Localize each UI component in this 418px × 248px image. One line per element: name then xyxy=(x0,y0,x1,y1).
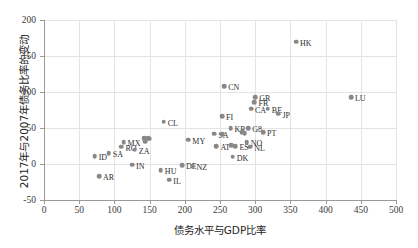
data-point xyxy=(228,126,233,131)
data-point-label: CL xyxy=(168,118,178,127)
gridline-horizontal xyxy=(44,164,396,165)
x-tick-mark xyxy=(290,200,291,204)
data-point-label: IL xyxy=(173,176,181,185)
data-point xyxy=(130,162,135,167)
y-axis-line xyxy=(44,20,45,200)
data-point xyxy=(229,143,234,148)
y-tick-mark xyxy=(40,164,44,165)
data-point-label: ZA xyxy=(139,146,150,155)
data-point xyxy=(97,174,102,179)
gridline-vertical xyxy=(150,20,151,200)
data-point-label: HU xyxy=(165,167,177,176)
x-tick-mark xyxy=(79,200,80,204)
data-point xyxy=(186,137,191,142)
data-point xyxy=(253,95,258,100)
x-tick-mark xyxy=(326,200,327,204)
data-point-label: NZ xyxy=(197,163,208,172)
x-tick-mark xyxy=(361,200,362,204)
data-point-label: ID xyxy=(99,153,107,162)
data-point xyxy=(161,119,166,124)
y-tick-mark xyxy=(40,200,44,201)
data-point xyxy=(106,151,111,156)
y-tick-mark xyxy=(40,128,44,129)
gridline-vertical xyxy=(114,20,115,200)
data-point xyxy=(249,106,254,111)
data-point-label: DK xyxy=(237,153,249,162)
gridline-vertical xyxy=(220,20,221,200)
x-tick-label: 200 xyxy=(178,205,192,215)
data-point xyxy=(159,168,164,173)
data-point xyxy=(133,147,138,152)
x-tick-label: 150 xyxy=(142,205,156,215)
x-tick-label: 300 xyxy=(248,205,262,215)
data-point-label: FI xyxy=(226,113,233,122)
data-point-label: AR xyxy=(103,173,114,182)
data-point-label: SA xyxy=(113,150,123,159)
gridline-vertical xyxy=(290,20,291,200)
data-point xyxy=(233,144,238,149)
data-point xyxy=(167,178,172,183)
data-point xyxy=(242,131,247,136)
gridline-horizontal xyxy=(44,128,396,129)
data-point-label: ES xyxy=(239,143,248,152)
x-tick-label: 500 xyxy=(389,205,403,215)
y-axis-title: 2017年与2007年债务比率的变动 xyxy=(16,27,31,197)
gridline-horizontal xyxy=(44,20,396,21)
x-tick-label: 450 xyxy=(354,205,368,215)
gridline-vertical xyxy=(79,20,80,200)
data-point xyxy=(142,136,147,141)
x-tick-label: 400 xyxy=(318,205,332,215)
y-tick-mark xyxy=(40,56,44,57)
data-point xyxy=(230,155,235,160)
data-point-label: PT xyxy=(267,129,276,138)
scatter-chart: -50050100150200 050100150200250300350400… xyxy=(0,0,418,248)
x-tick-label: 100 xyxy=(107,205,121,215)
data-point-label: IN xyxy=(136,161,144,170)
data-point xyxy=(214,144,219,149)
plot-area xyxy=(44,20,396,200)
data-point xyxy=(119,144,124,149)
x-tick-mark xyxy=(396,200,397,204)
gridline-vertical xyxy=(361,20,362,200)
gridline-horizontal xyxy=(44,56,396,57)
gridline-vertical xyxy=(326,20,327,200)
x-tick-label: 350 xyxy=(283,205,297,215)
data-point xyxy=(92,154,97,159)
data-point xyxy=(147,137,152,142)
data-point xyxy=(222,84,227,89)
y-tick-mark xyxy=(40,92,44,93)
data-point-label: CN xyxy=(228,83,239,92)
x-tick-mark xyxy=(150,200,151,204)
data-point-label: CA xyxy=(255,105,266,114)
x-tick-label: 0 xyxy=(42,205,47,215)
data-point xyxy=(261,130,266,135)
x-tick-mark xyxy=(114,200,115,204)
data-point xyxy=(294,39,299,44)
x-tick-mark xyxy=(185,200,186,204)
x-tick-mark xyxy=(255,200,256,204)
data-point-label: MY xyxy=(192,136,205,145)
data-point xyxy=(246,126,251,131)
x-tick-label: 50 xyxy=(74,205,84,215)
data-point-label: HK xyxy=(300,38,312,47)
data-point xyxy=(349,95,354,100)
y-tick-label: 200 xyxy=(0,15,36,25)
data-point xyxy=(220,132,225,137)
x-tick-label: 250 xyxy=(213,205,227,215)
data-point-label: JP xyxy=(282,110,290,119)
x-tick-mark xyxy=(44,200,45,204)
y-tick-mark xyxy=(40,20,44,21)
data-point xyxy=(252,100,257,105)
y-tick-label: -50 xyxy=(0,195,36,205)
gridline-vertical xyxy=(185,20,186,200)
data-point xyxy=(190,164,195,169)
gridline-horizontal xyxy=(44,92,396,93)
x-axis-title: 债务水平与GDP比率 xyxy=(44,222,396,237)
data-point-label: LU xyxy=(355,94,366,103)
data-point xyxy=(220,114,225,119)
x-tick-mark xyxy=(220,200,221,204)
gridline-vertical xyxy=(396,20,397,200)
data-point xyxy=(180,163,185,168)
data-point xyxy=(212,131,217,136)
data-point xyxy=(276,111,281,116)
